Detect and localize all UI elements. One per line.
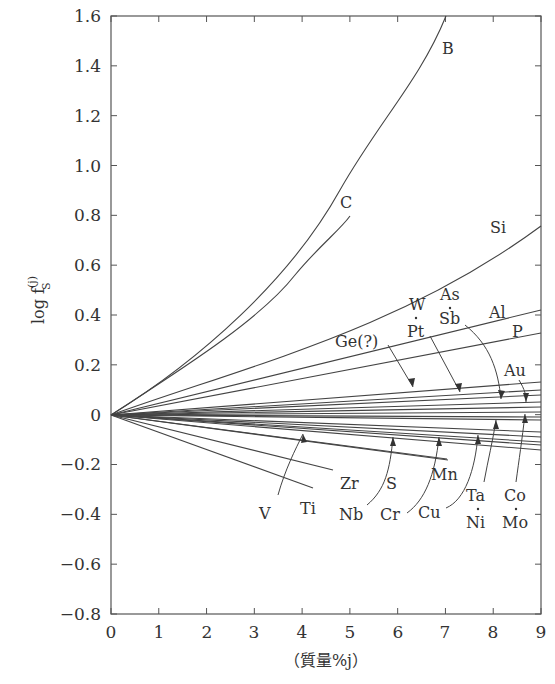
- label-P: P: [512, 322, 523, 341]
- y-tick-label: 0.4: [74, 305, 101, 325]
- label-Ge: Ge(?): [335, 332, 378, 351]
- y-tick-label: 0.8: [74, 205, 101, 225]
- arrowhead-icon: [498, 390, 505, 399]
- label-Au: Au: [503, 361, 526, 380]
- label-Al: Al: [488, 303, 506, 322]
- curve-Al: [111, 310, 541, 415]
- label-S: S: [386, 474, 397, 493]
- svg-text:log f(j)S: log f(j)S: [26, 276, 53, 324]
- y-axis-tick-labels: 1.6 1.4 1.2 1.0 0.8 0.6 0.4 0.2 0 −0.2 −…: [60, 6, 101, 624]
- arrowhead-icon: [493, 420, 499, 429]
- arrowhead-icon: [475, 435, 481, 444]
- label-Ti: Ti: [300, 499, 316, 518]
- label-Sb: Sb: [439, 309, 460, 328]
- chart: 1.6 1.4 1.2 1.0 0.8 0.6 0.4 0.2 0 −0.2 −…: [0, 0, 555, 684]
- y-tick-label: −0.4: [60, 504, 101, 524]
- x-tick-label: 6: [393, 622, 404, 642]
- x-tick-label: 0: [106, 622, 117, 642]
- label-Si: Si: [490, 218, 506, 237]
- y-tick-label: 1.2: [74, 106, 101, 126]
- y-tick-label: 0.6: [74, 255, 101, 275]
- label-Nb: Nb: [339, 505, 363, 524]
- x-tick-label: 7: [440, 622, 451, 642]
- x-tick-label: 2: [202, 622, 213, 642]
- x-tick-label: 8: [488, 622, 499, 642]
- y-tick-label: 0: [90, 405, 101, 425]
- curve-labels: B C Si Al P Au Ge(?) W Pt As Sb V Ti Zr …: [258, 39, 528, 532]
- arrow-Pt: [430, 336, 460, 392]
- y-axis-title-main: log f: [29, 287, 48, 324]
- x-tick-label: 9: [536, 622, 547, 642]
- arrow-Nb: [367, 437, 393, 505]
- label-B: B: [442, 39, 454, 58]
- label-Ta: Ta: [466, 486, 485, 505]
- label-Cr: Cr: [380, 505, 400, 524]
- arrowhead-icon: [455, 383, 462, 392]
- curves: [111, 16, 541, 488]
- x-tick-label: 4: [297, 622, 308, 642]
- x-tick-label: 5: [345, 622, 356, 642]
- label-Zr: Zr: [340, 474, 359, 493]
- label-dot: [477, 508, 479, 510]
- x-axis-tick-labels: 0 1 2 3 4 5 6 7 8 9: [106, 622, 547, 642]
- x-axis-title: （質量%j）: [284, 651, 368, 670]
- label-Mo: Mo: [502, 513, 528, 532]
- label-W: W: [409, 295, 426, 314]
- arrow-V: [278, 434, 303, 495]
- y-tick-label: −0.8: [60, 604, 101, 624]
- curve-Cr: [111, 415, 541, 437]
- y-tick-label: 1.0: [74, 156, 101, 176]
- label-dot: [515, 508, 517, 510]
- y-tick-label: 1.6: [74, 6, 101, 26]
- label-Mn: Mn: [431, 465, 458, 484]
- x-tick-label: 1: [154, 622, 165, 642]
- y-tick-label: 0.2: [74, 355, 101, 375]
- arrowhead-icon: [523, 393, 529, 402]
- curve-B: [111, 16, 446, 415]
- label-C: C: [340, 193, 352, 212]
- arrowhead-icon: [408, 378, 415, 387]
- label-dot: [415, 317, 417, 319]
- label-Ni: Ni: [466, 513, 485, 532]
- y-axis-title-sub: S: [40, 282, 53, 290]
- label-As: As: [439, 285, 460, 304]
- y-tick-label: −0.6: [60, 554, 101, 574]
- label-Pt: Pt: [407, 322, 425, 341]
- label-Cu: Cu: [418, 503, 441, 522]
- x-tick-label: 3: [249, 622, 260, 642]
- label-V: V: [258, 504, 271, 523]
- y-axis-title-sup: (j): [26, 276, 39, 288]
- curve-C: [111, 216, 350, 415]
- y-axis-title: log f(j)S: [26, 276, 53, 324]
- label-Co: Co: [504, 486, 526, 505]
- arrowhead-icon: [522, 414, 528, 423]
- y-tick-label: −0.2: [60, 454, 101, 474]
- y-tick-label: 1.4: [74, 56, 101, 76]
